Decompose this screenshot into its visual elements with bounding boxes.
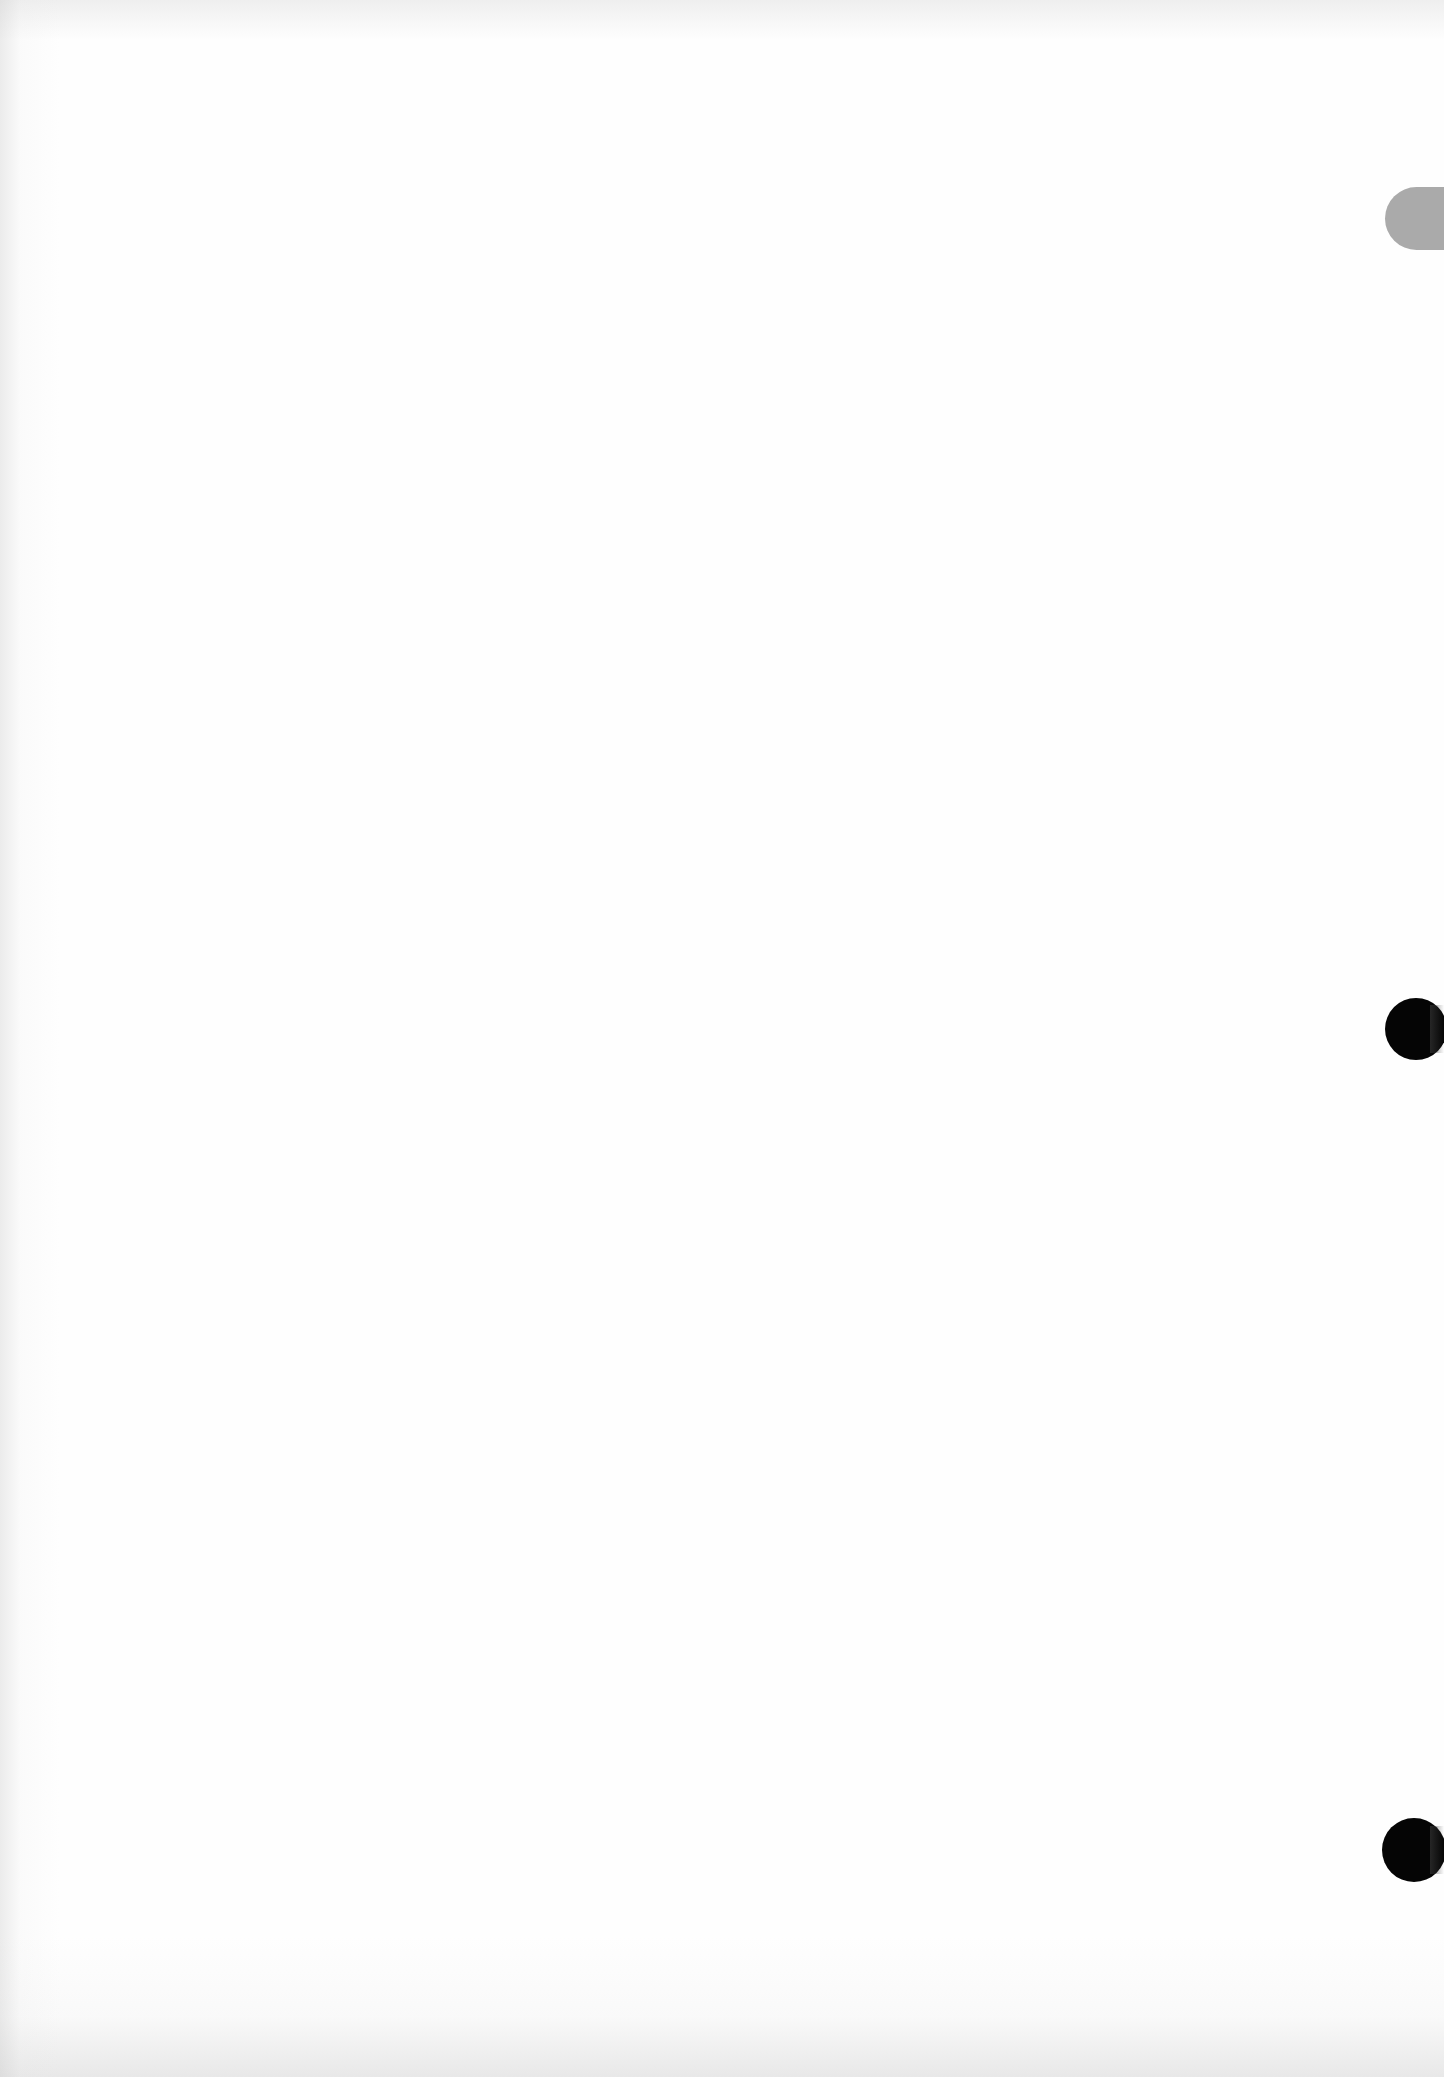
index-tab-marker: [1385, 187, 1444, 250]
punch-hole-shadow: [1430, 1005, 1444, 1053]
punch-hole-shadow: [1430, 1826, 1444, 1874]
blank-document-page: [0, 0, 1444, 2077]
